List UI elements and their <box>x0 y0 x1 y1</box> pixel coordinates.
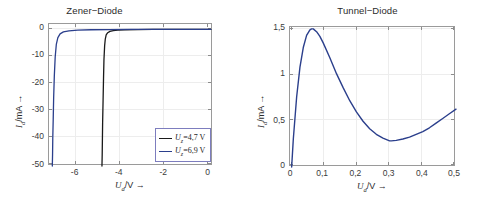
tunnel-xticklabel-2: 0,2 <box>349 168 361 178</box>
zener-y-axis-subscript: d <box>19 122 26 125</box>
zener-legend[interactable]: Uz=4,7 V Uz=6,9 V <box>155 128 211 162</box>
zener-y-axis-label: Id/mA → <box>14 95 26 128</box>
legend-label-0-value: =4,7 V <box>183 133 205 142</box>
zener-x-axis-unit: /V → <box>125 180 145 190</box>
tunnel-yticklabel-2: 1 <box>261 68 285 78</box>
tunnel-yticklabel-0: 0 <box>261 160 285 170</box>
legend-label-0: Uz=4,7 V <box>175 133 205 144</box>
tunnel-chart-title: Tunnel−Diode <box>245 5 490 16</box>
legend-line-swatch-1 <box>159 151 172 152</box>
tunnel-y-axis-label: Id/mA → <box>256 95 268 128</box>
tunnel-x-axis-label: Ud/V → <box>357 181 387 193</box>
tunnel-xticklabel-3: 0,3 <box>383 168 395 178</box>
tunnel-diode-panel: Tunnel−Diode <box>245 0 490 201</box>
zener-yticklabel-5: -50 <box>20 159 44 169</box>
tunnel-xticklabel-0: 0 <box>288 168 293 178</box>
legend-line-swatch-0 <box>159 138 172 139</box>
zener-x-axis-label: Ud/V → <box>115 180 145 192</box>
zener-xticklabel-3: 0 <box>205 167 210 177</box>
zener-diode-panel: Zener−Diode <box>0 0 245 201</box>
legend-label-1-value: =6,9 V <box>183 146 205 155</box>
legend-label-1: Uz=6,9 V <box>175 146 205 157</box>
zener-xticklabel-1: -4 <box>115 167 123 177</box>
tunnel-plot-area <box>289 26 455 166</box>
tunnel-x-axis-unit: /V → <box>367 181 387 191</box>
tunnel-xticklabel-5: 0,5 <box>448 168 460 178</box>
zener-chart-title: Zener−Diode <box>0 5 217 16</box>
tunnel-y-axis-subscript: d <box>261 122 268 125</box>
zener-xticklabel-0: -6 <box>71 167 79 177</box>
legend-item-0[interactable]: Uz=4,7 V <box>159 132 206 145</box>
zener-yticklabel-1: -10 <box>20 49 44 59</box>
tunnel-curve <box>290 27 456 167</box>
tunnel-series-line <box>292 29 456 167</box>
zener-xticklabel-2: -2 <box>159 167 167 177</box>
tunnel-y-axis-symbol: I <box>256 125 266 128</box>
tunnel-y-axis-unit: /mA → <box>256 95 266 122</box>
zener-y-axis-symbol: I <box>14 125 24 128</box>
tunnel-xticklabel-4: 0,4 <box>416 168 428 178</box>
zener-yticklabel-0: 0 <box>20 22 44 32</box>
zener-yticklabel-4: -40 <box>20 131 44 141</box>
tunnel-xticklabel-1: 0,1 <box>316 168 328 178</box>
tunnel-yticklabel-3: 1,5 <box>261 22 285 32</box>
zener-yticklabel-2: -20 <box>20 77 44 87</box>
zener-y-axis-unit: /mA → <box>14 95 24 122</box>
legend-item-1[interactable]: Uz=6,9 V <box>159 145 206 158</box>
diode-characteristics-figure: Zener−Diode <box>0 0 490 201</box>
